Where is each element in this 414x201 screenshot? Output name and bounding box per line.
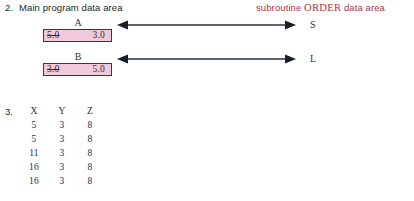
memory-cell-b-old-value: 3.0 bbox=[47, 65, 59, 75]
cell-z: 8 bbox=[76, 146, 104, 160]
item-2-number: 2. bbox=[5, 2, 13, 13]
cell-y: 3 bbox=[48, 132, 76, 146]
subroutine-data-area-title: subroutine ORDER data area bbox=[256, 2, 385, 13]
cell-z: 8 bbox=[76, 118, 104, 132]
cell-y: 3 bbox=[48, 146, 76, 160]
column-header-x: X bbox=[20, 104, 48, 118]
memory-box-b: 3.0 5.0 bbox=[43, 63, 112, 76]
subroutine-title-suffix: data area bbox=[341, 2, 385, 13]
double-headed-arrow-icon-bottom bbox=[117, 53, 296, 65]
memory-box-a: 5.0 3.0 bbox=[43, 29, 112, 42]
table-row: 5 3 8 bbox=[20, 132, 104, 146]
item-2-title: Main program data area bbox=[19, 2, 123, 13]
memory-cell-b-new-value: 5.0 bbox=[93, 65, 105, 75]
variable-label-a: A bbox=[71, 17, 85, 28]
column-header-y: Y bbox=[48, 104, 76, 118]
side-label-l: L bbox=[310, 53, 316, 64]
cell-y: 3 bbox=[48, 118, 76, 132]
double-headed-arrow-icon-top bbox=[117, 19, 296, 31]
subroutine-title-prefix: subroutine bbox=[256, 2, 304, 13]
item-3-number: 3. bbox=[5, 106, 13, 117]
table-row: 16 3 8 bbox=[20, 160, 104, 174]
cell-x: 5 bbox=[20, 132, 48, 146]
variable-label-b: B bbox=[71, 51, 85, 62]
column-header-z: Z bbox=[76, 104, 104, 118]
cell-z: 8 bbox=[76, 132, 104, 146]
side-label-s: S bbox=[310, 19, 316, 30]
cell-z: 8 bbox=[76, 174, 104, 188]
table-header-row: X Y Z bbox=[20, 104, 104, 118]
cell-z: 8 bbox=[76, 160, 104, 174]
cell-x: 5 bbox=[20, 118, 48, 132]
cell-y: 3 bbox=[48, 174, 76, 188]
cell-x: 16 bbox=[20, 174, 48, 188]
memory-cell-a-new-value: 3.0 bbox=[93, 31, 105, 41]
trace-table: X Y Z 5 3 8 5 3 8 11 3 8 16 3 bbox=[20, 104, 104, 188]
cell-x: 16 bbox=[20, 160, 48, 174]
cell-y: 3 bbox=[48, 160, 76, 174]
figure-page: 2. Main program data area subroutine ORD… bbox=[0, 0, 414, 201]
memory-cell-a-old-value: 5.0 bbox=[47, 31, 59, 41]
subroutine-name: ORDER bbox=[304, 2, 341, 13]
table-row: 11 3 8 bbox=[20, 146, 104, 160]
table-row: 5 3 8 bbox=[20, 118, 104, 132]
cell-x: 11 bbox=[20, 146, 48, 160]
table-row: 16 3 8 bbox=[20, 174, 104, 188]
